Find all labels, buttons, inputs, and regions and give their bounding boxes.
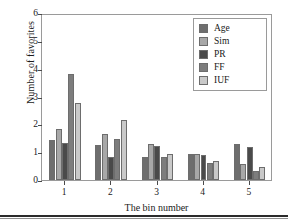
bar-iuf-bin-4: [213, 161, 219, 180]
bar-pr-bin-5: [247, 147, 253, 180]
x-axis-tick-mark: [110, 181, 111, 185]
legend-item-label: IUF: [214, 75, 229, 85]
legend-swatch-icon: [199, 50, 208, 59]
legend-swatch-icon: [199, 63, 208, 72]
x-axis-tick-label: 1: [54, 187, 74, 197]
y-axis-tick-mark: [38, 153, 42, 154]
bar-ff-bin-5: [253, 171, 259, 180]
bar-ff-bin-2: [114, 139, 120, 180]
bar-iuf-bin-3: [167, 154, 173, 180]
bar-sim-bin-3: [148, 144, 154, 180]
legend-item-pr[interactable]: PR: [199, 48, 262, 60]
bottom-divider-secondary: [0, 218, 288, 219]
bar-age-bin-2: [95, 145, 101, 180]
y-axis-tick-mark: [38, 125, 42, 126]
legend-item-age[interactable]: Age: [199, 22, 262, 34]
y-axis-tick-label: 2: [26, 120, 38, 130]
legend: AgeSimPRFFIUF: [193, 18, 267, 91]
y-axis-tick-mark: [38, 14, 42, 15]
bar-ff-bin-4: [207, 163, 213, 180]
legend-item-label: Sim: [214, 36, 229, 46]
bar-sim-bin-4: [194, 154, 200, 180]
y-axis-tick-mark: [38, 70, 42, 71]
bar-pr-bin-2: [108, 157, 114, 180]
legend-item-label: PR: [214, 49, 226, 59]
bar-sim-bin-1: [56, 129, 62, 180]
bottom-divider: [0, 215, 288, 217]
y-axis-tick-mark: [38, 42, 42, 43]
bar-ff-bin-3: [161, 157, 167, 180]
bar-iuf-bin-1: [75, 103, 81, 180]
bar-age-bin-4: [188, 154, 194, 180]
legend-item-iuf[interactable]: IUF: [199, 74, 262, 86]
legend-item-ff[interactable]: FF: [199, 61, 262, 73]
legend-swatch-icon: [199, 24, 208, 33]
legend-item-sim[interactable]: Sim: [199, 35, 262, 47]
y-axis-tick-label: 0: [26, 176, 38, 186]
y-axis-tick-mark: [38, 98, 42, 99]
y-axis-tick-label: 6: [26, 9, 38, 19]
legend-swatch-icon: [199, 37, 208, 46]
x-axis-title: The bin number: [41, 202, 272, 213]
bar-age-bin-5: [234, 144, 240, 180]
y-axis-tick-label: 1: [26, 148, 38, 158]
legend-swatch-icon: [199, 76, 208, 85]
y-axis-tick-labels: 0123456: [18, 0, 38, 224]
bar-iuf-bin-5: [259, 167, 265, 180]
y-axis-tick-mark: [38, 181, 42, 182]
x-axis-tick-mark: [203, 181, 204, 185]
x-axis-tick-mark: [157, 181, 158, 185]
x-axis-tick-label: 3: [147, 187, 167, 197]
y-axis-tick-label: 3: [26, 93, 38, 103]
bar-pr-bin-1: [62, 143, 68, 180]
x-axis-tick-label: 2: [100, 187, 120, 197]
bar-sim-bin-5: [240, 164, 246, 180]
bar-age-bin-3: [142, 157, 148, 180]
x-axis-tick-mark: [64, 181, 65, 185]
y-axis-tick-label: 4: [26, 65, 38, 75]
figure: Number of favorites 0123456 The bin numb…: [0, 0, 288, 224]
bar-pr-bin-4: [201, 155, 207, 180]
x-axis-tick-label: 4: [193, 187, 213, 197]
x-axis-tick-label: 5: [239, 187, 259, 197]
bar-ff-bin-1: [68, 74, 74, 180]
bar-iuf-bin-2: [121, 120, 127, 180]
bar-sim-bin-2: [102, 134, 108, 180]
legend-item-label: Age: [214, 23, 230, 33]
bar-age-bin-1: [49, 140, 55, 180]
y-axis-tick-label: 5: [26, 37, 38, 47]
bar-pr-bin-3: [154, 146, 160, 180]
x-axis-tick-mark: [249, 181, 250, 185]
legend-item-label: FF: [214, 62, 225, 72]
